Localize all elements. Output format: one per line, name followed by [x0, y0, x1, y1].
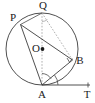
point-label-p: P [10, 11, 16, 23]
center-dot [41, 47, 45, 51]
angle-arc-at-a-chord [42, 74, 51, 79]
right-angle-marker-at-b [67, 58, 72, 62]
angle-arc-at-q [42, 20, 47, 22]
chord-p-b [21, 25, 73, 61]
point-label-o: O [32, 42, 40, 54]
geometry-figure: P Q O B A T [0, 0, 95, 103]
geometry-canvas: P Q O B A T [0, 0, 95, 103]
angle-arc-at-a-tangent [55, 75, 58, 85]
point-label-a: A [38, 88, 46, 100]
point-label-t: T [84, 88, 91, 100]
point-label-b: B [76, 54, 83, 66]
chord-p-a [21, 25, 43, 86]
point-label-q: Q [39, 0, 47, 11]
